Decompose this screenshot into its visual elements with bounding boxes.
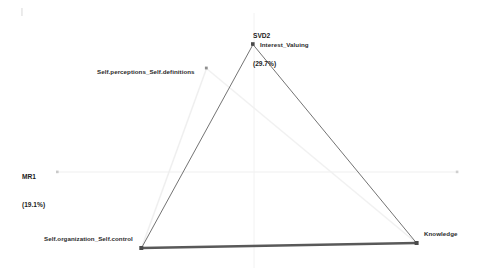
plot-canvas <box>0 0 480 271</box>
corner-tick <box>21 8 22 16</box>
x-axis-label-name: MR1 <box>22 172 45 181</box>
edge-selforganization-to-knowledge <box>142 243 417 248</box>
right-axis-tick <box>456 171 459 174</box>
y-axis-label-name: SVD2 <box>253 31 276 40</box>
y-axis-label: SVD2 (29.7%) <box>253 13 276 87</box>
left-axis-tick <box>56 171 59 174</box>
point-marker-self-perceptions <box>205 67 208 70</box>
point-label-interest-valuing: Interest_Valuing <box>260 41 309 49</box>
point-label-knowledge: Knowledge <box>424 230 457 238</box>
edge-selfperceptions-to-selforganization <box>142 69 207 249</box>
edge-interest-to-knowledge <box>253 45 417 244</box>
y-axis-label-variance: (29.7%) <box>253 59 276 68</box>
point-label-self-organization-self-control: Self.organization_Self.control <box>44 235 133 243</box>
x-axis-label: MR1 (19.1%) <box>22 154 45 228</box>
point-marker-knowledge <box>415 241 419 245</box>
edge-selfperceptions-to-knowledge <box>207 69 417 244</box>
point-marker-self-organization <box>139 246 143 250</box>
x-axis-label-variance: (19.1%) <box>22 200 45 209</box>
biplot-figure: SVD2 (29.7%) MR1 (19.1%) Interest_Valuin… <box>0 0 480 271</box>
point-label-self-perceptions-self-definitions: Self.perceptions_Self.definitions <box>97 68 195 76</box>
